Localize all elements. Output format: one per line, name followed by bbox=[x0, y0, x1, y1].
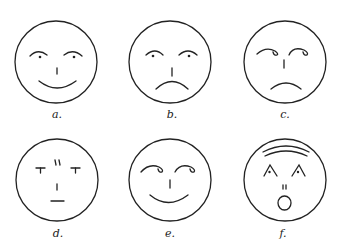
faces-figure bbox=[0, 0, 341, 251]
face-c bbox=[244, 21, 326, 103]
mouth-smile bbox=[150, 195, 188, 203]
face-f bbox=[244, 139, 326, 221]
left-eyebrow-curl bbox=[141, 166, 163, 172]
face-outline bbox=[15, 21, 97, 103]
forehead-line-bottom bbox=[265, 151, 307, 156]
right-eye-icon bbox=[188, 55, 191, 58]
face-outline bbox=[244, 21, 326, 103]
label-e: e. bbox=[155, 227, 185, 240]
left-eyebrow bbox=[30, 52, 47, 56]
face-b bbox=[129, 21, 211, 103]
mouth-smile bbox=[39, 81, 76, 88]
mouth-frown bbox=[271, 83, 301, 89]
face-a bbox=[15, 21, 97, 103]
face-outline bbox=[16, 139, 98, 221]
right-eyebrow-curl bbox=[289, 49, 308, 55]
face-e bbox=[129, 139, 211, 221]
label-c: c. bbox=[270, 108, 300, 121]
label-a: a. bbox=[42, 108, 72, 121]
brow-mark-left bbox=[55, 160, 56, 165]
right-eye-icon bbox=[297, 171, 299, 173]
label-b: b. bbox=[157, 108, 187, 121]
left-eye-icon bbox=[268, 171, 270, 173]
label-f: f. bbox=[268, 227, 298, 240]
label-d: d. bbox=[43, 227, 73, 240]
left-eye-caret bbox=[264, 165, 277, 176]
right-eyebrow bbox=[64, 52, 82, 56]
left-eye-icon bbox=[152, 55, 155, 58]
face-outline bbox=[129, 21, 211, 103]
right-eye-caret bbox=[292, 165, 305, 176]
left-eyebrow-curl bbox=[257, 49, 278, 55]
right-eye-icon bbox=[73, 56, 76, 59]
mouth-open bbox=[278, 196, 291, 210]
face-d bbox=[16, 139, 98, 221]
right-eyebrow-curl bbox=[175, 166, 195, 172]
mouth-frown bbox=[156, 82, 188, 90]
right-eyebrow bbox=[179, 51, 197, 55]
brow-mark-right bbox=[59, 160, 60, 165]
left-eyebrow bbox=[146, 51, 163, 55]
left-eye-icon bbox=[39, 56, 42, 59]
